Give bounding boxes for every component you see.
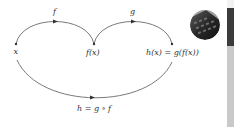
edge-h-arrow-icon — [90, 96, 95, 100]
node-hx-label: h(x) = g(f(x)) — [146, 48, 199, 57]
sidebar-dark-panel — [227, 8, 234, 46]
edge-f-arc — [16, 22, 94, 45]
sidebar-light-panel — [227, 46, 234, 127]
sidebar-cap — [227, 0, 234, 8]
edge-h-arc — [17, 60, 172, 98]
node-fx-label: f(x) — [85, 48, 100, 57]
node-fx-point — [93, 43, 95, 45]
keyboard-photo-icon — [190, 10, 222, 40]
composition-diagram: f g h = g ∘ f x f(x) h(x) = g(f(x)) — [0, 0, 234, 127]
edge-g-arrow-icon — [131, 20, 136, 24]
node-x-point — [15, 43, 17, 45]
node-x-label: x — [14, 47, 19, 56]
node-hx-point — [171, 43, 173, 45]
edge-f-arrow-icon — [53, 20, 58, 24]
edge-g-label: g — [130, 7, 135, 16]
edge-h-label: h = g ∘ f — [77, 104, 113, 113]
edge-f-label: f — [52, 7, 58, 16]
edge-g-arc — [94, 22, 172, 45]
